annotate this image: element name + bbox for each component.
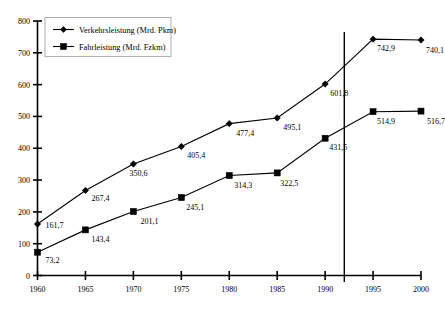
y-tick-label: 400	[18, 144, 30, 153]
x-tick-group: 196019651970197519801985199019952000	[30, 271, 430, 294]
data-point-marker	[226, 120, 232, 126]
y-tick-label: 700	[18, 49, 30, 58]
legend-marker-square-icon	[61, 44, 67, 50]
data-point-label: 245,1	[186, 203, 204, 212]
data-point-label: 514,9	[377, 117, 395, 126]
x-axis: 196019651970197519801985199019952000	[30, 271, 430, 294]
data-point-marker	[130, 209, 136, 215]
data-point-label: 477,4	[236, 129, 254, 138]
data-point-label: 143,4	[91, 235, 109, 244]
data-point-label: 322,5	[280, 179, 298, 188]
legend-label-fahrleistung: Fahrleistung (Mrd. Fzkm)	[79, 43, 166, 52]
data-point-marker	[322, 135, 328, 141]
data-point-marker	[35, 249, 41, 255]
y-tick-label: 800	[18, 17, 30, 26]
x-tick-label: 1975	[173, 285, 189, 294]
x-tick-label: 1990	[317, 285, 333, 294]
data-point-label: 73,2	[46, 256, 60, 265]
chart-container: 0100200300400500600700800 19601965197019…	[0, 0, 445, 311]
data-point-label: 431,5	[329, 143, 347, 152]
data-point-label: 201,1	[140, 217, 158, 226]
y-tick-label: 100	[18, 240, 30, 249]
x-tick-label: 1985	[269, 285, 285, 294]
data-point-marker	[82, 227, 88, 233]
data-point-label: 495,1	[283, 123, 301, 132]
series-1: 161,7267,4350,6405,4477,4495,1601,8742,9…	[34, 36, 444, 230]
legend-label-verkehrsleistung: Verkehrsleistung (Mrd. Pkm)	[79, 26, 176, 35]
data-point-marker	[274, 170, 280, 176]
x-tick-label: 2000	[413, 285, 429, 294]
x-tick-label: 1965	[77, 285, 93, 294]
y-tick-label: 600	[18, 81, 30, 90]
y-tick-label: 0	[26, 272, 30, 281]
data-point-label: 740,1	[426, 46, 444, 55]
y-tick-label: 500	[18, 112, 30, 121]
x-tick-label: 1970	[125, 285, 141, 294]
data-point-marker	[418, 37, 424, 43]
data-point-label: 350,6	[129, 169, 147, 178]
y-tick-group: 0100200300400500600700800	[18, 17, 42, 281]
data-point-label: 516,7	[427, 117, 445, 126]
data-point-label: 314,3	[234, 181, 252, 190]
data-point-label: 405,4	[187, 151, 205, 160]
y-tick-label: 300	[18, 176, 30, 185]
series-group: 161,7267,4350,6405,4477,4495,1601,8742,9…	[34, 36, 445, 265]
series-line	[38, 111, 422, 252]
data-point-label: 267,4	[91, 194, 109, 203]
data-point-marker	[370, 109, 376, 115]
data-point-marker	[226, 173, 232, 179]
data-point-marker	[418, 108, 424, 114]
x-tick-label: 1995	[365, 285, 381, 294]
x-tick-label: 1980	[221, 285, 237, 294]
data-point-marker	[178, 195, 184, 201]
y-axis: 0100200300400500600700800	[18, 17, 42, 281]
data-point-marker	[178, 143, 184, 149]
line-chart: 0100200300400500600700800 19601965197019…	[0, 0, 445, 311]
data-point-marker	[130, 161, 136, 167]
x-tick-label: 1960	[30, 285, 46, 294]
data-point-label: 742,9	[377, 44, 395, 53]
legend: Verkehrsleistung (Mrd. Pkm) Fahrleistung…	[45, 18, 176, 57]
data-point-label: 601,8	[330, 89, 348, 98]
data-point-label: 161,7	[46, 221, 64, 230]
y-tick-label: 200	[18, 208, 30, 217]
